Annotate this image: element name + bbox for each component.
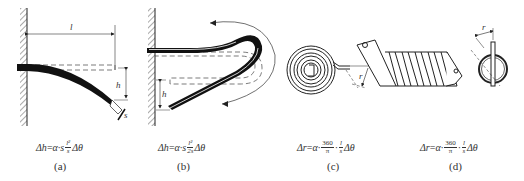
formula-b-den: 2s <box>187 148 193 155</box>
formula-b: Δh = α·s l² 2s Δθ <box>158 140 205 155</box>
formula-c-den1: π <box>326 148 330 155</box>
formula-c: Δr = α· 360 π · l s Δθ <box>297 140 355 155</box>
formula-c-fraction-1: 360 π <box>321 140 334 155</box>
formula-b-fraction: l² 2s <box>187 140 193 155</box>
formula-a-den: s <box>67 148 70 155</box>
formula-d-den1: π <box>449 148 453 155</box>
formula-c-tail: Δθ <box>344 142 355 153</box>
caption-d: (d) <box>449 160 462 172</box>
formula-d: Δr = α· 360 π · l s Δθ <box>420 140 478 155</box>
label-l: l <box>70 22 73 32</box>
formula-d-tail: Δθ <box>467 142 478 153</box>
formula-d-coef: α· <box>435 142 443 153</box>
formula-c-fraction-2: l s <box>339 140 343 155</box>
formula-a: Δh = α·s l² s Δθ <box>36 140 83 155</box>
formula-b-tail: Δθ <box>194 142 205 153</box>
formula-c-den2: s <box>340 148 343 155</box>
formula-c-lhs: Δr <box>297 142 307 153</box>
panel-c-drawing: r <box>287 46 372 94</box>
panel-d-drawing: r <box>357 22 507 86</box>
formula-d-den2: s <box>463 148 466 155</box>
formula-d-lhs: Δr <box>420 142 430 153</box>
bimetal-strip-a <box>17 64 112 106</box>
caption-a: (a) <box>54 160 66 172</box>
formula-b-lhs: Δh <box>158 142 169 153</box>
formula-a-tail: Δθ <box>72 142 83 153</box>
formula-a-coef: α·s <box>53 142 65 153</box>
formula-b-coef: α·s <box>175 142 187 153</box>
formula-d-dot: · <box>458 142 461 153</box>
formula-c-coef: α· <box>312 142 320 153</box>
caption-b: (b) <box>177 160 190 172</box>
label-s: s <box>124 110 128 120</box>
label-r-c: r <box>359 71 363 81</box>
label-r-d: r <box>482 22 486 32</box>
formula-a-fraction: l² s <box>65 140 71 155</box>
formula-d-fraction-1: 360 π <box>444 140 457 155</box>
label-h-a: h <box>116 80 121 90</box>
formula-c-dot: · <box>335 142 338 153</box>
panel-a-drawing: l h s <box>17 8 128 126</box>
formula-d-fraction-2: l s <box>462 140 466 155</box>
caption-c: (c) <box>327 160 339 172</box>
panel-b-drawing: h <box>147 8 275 126</box>
label-h-b: h <box>162 89 167 99</box>
formula-a-lhs: Δh <box>36 142 47 153</box>
